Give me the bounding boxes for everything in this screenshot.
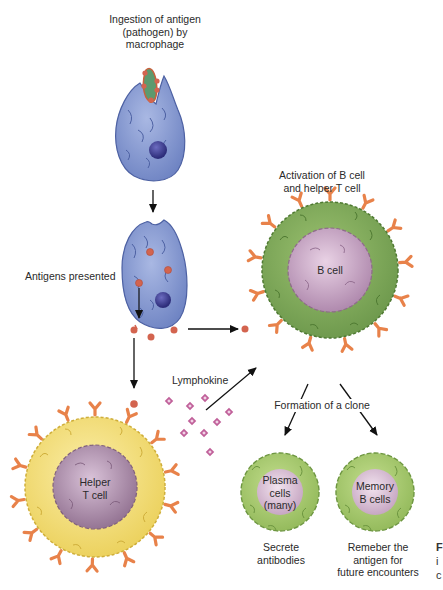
label-ingestion: Ingestion of antigen (pathogen) by macro… bbox=[100, 13, 210, 51]
label-remember-line3: future encounters bbox=[333, 566, 423, 579]
cropped-caption-fragment: F i c bbox=[436, 540, 443, 582]
label-remember-line2: antigen for bbox=[333, 554, 423, 567]
label-remember-antigen: Remeber the antigen for future encounter… bbox=[333, 541, 423, 579]
label-secrete-line1: Secrete bbox=[250, 541, 312, 554]
label-plasma-line2: cells bbox=[255, 487, 305, 500]
label-memory-b-cells: Memory B cells bbox=[345, 480, 405, 505]
label-antigens-presented: Antigens presented bbox=[25, 270, 115, 283]
label-ingestion-line3: macrophage bbox=[100, 38, 210, 51]
label-ingestion-line1: Ingestion of antigen bbox=[100, 13, 210, 26]
label-plasma-line3: (many) bbox=[255, 499, 305, 512]
label-memory-line2: B cells bbox=[345, 493, 405, 506]
label-b-cell: B cell bbox=[300, 264, 360, 277]
label-secrete-antibodies: Secrete antibodies bbox=[250, 541, 312, 566]
macrophage-presenting bbox=[122, 220, 187, 341]
cropped-caption-line3: c bbox=[436, 568, 443, 582]
label-helper-t-cell: Helper T cell bbox=[65, 476, 125, 501]
label-helper-line1: Helper bbox=[65, 476, 125, 489]
label-secrete-line2: antibodies bbox=[250, 554, 312, 567]
label-plasma-line1: Plasma bbox=[255, 474, 305, 487]
label-helper-line2: T cell bbox=[65, 489, 125, 502]
label-memory-line1: Memory bbox=[345, 480, 405, 493]
label-ingestion-line2: (pathogen) by bbox=[100, 26, 210, 39]
label-activation: Activation of B cell and helper T cell bbox=[263, 169, 381, 194]
cropped-caption-line1: F bbox=[436, 540, 443, 554]
macrophage-nucleus bbox=[149, 141, 167, 159]
label-plasma-cells: Plasma cells (many) bbox=[255, 474, 305, 512]
label-activation-line2: and helper T cell bbox=[263, 182, 381, 195]
antigen-on-b-cell bbox=[242, 326, 249, 333]
label-remember-line1: Remeber the bbox=[333, 541, 423, 554]
label-activation-line1: Activation of B cell bbox=[263, 169, 381, 182]
macrophage-ingesting bbox=[116, 68, 185, 180]
cropped-caption-line2: i bbox=[436, 554, 443, 568]
label-lymphokine: Lymphokine bbox=[172, 374, 228, 387]
lymphokine-molecules bbox=[165, 394, 233, 456]
label-formation-clone: Formation of a clone bbox=[262, 399, 382, 412]
